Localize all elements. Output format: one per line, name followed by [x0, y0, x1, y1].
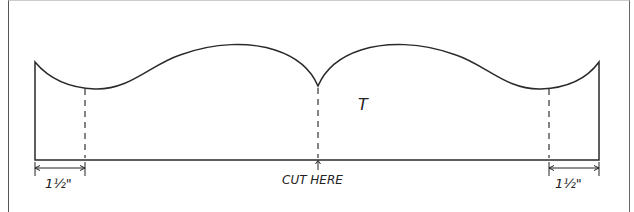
left-dimension — [35, 162, 85, 176]
pattern-diagram: 1½" 1½" CUT HERE T — [0, 0, 634, 212]
right-dimension-label: 1½" — [555, 176, 582, 191]
right-dimension — [549, 162, 599, 176]
left-dimension-label: 1½" — [45, 176, 72, 191]
center-letter: T — [358, 95, 369, 114]
cut-here-label: CUT HERE — [282, 173, 343, 187]
pattern-outline — [35, 45, 599, 160]
